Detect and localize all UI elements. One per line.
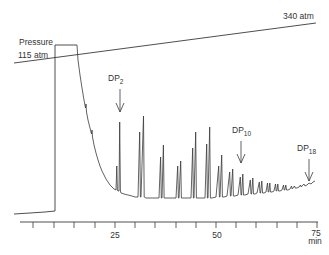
dp18-label: DP18	[297, 143, 316, 155]
x-axis: 25 50 75 min	[20, 222, 322, 246]
pressure-label: Pressure	[19, 37, 53, 47]
x-axis-ticks	[33, 222, 317, 228]
pressure-start-label: 115 atm	[18, 50, 48, 60]
pressure-end-label: 340 atm	[283, 11, 314, 21]
dp2-annotation: DP2	[108, 73, 124, 112]
dp2-label: DP2	[108, 73, 124, 85]
chromatogram-chart: Pressure 115 atm 340 atm DP2 DP10 DP18	[0, 0, 329, 255]
x-axis-unit-label: min	[308, 236, 322, 246]
chromatogram-baseline-start	[14, 211, 55, 214]
pressure-ramp-line	[14, 23, 316, 63]
x-tick-label-50: 50	[212, 230, 222, 240]
chromatogram-trace	[77, 45, 315, 198]
dp10-annotation: DP10	[232, 125, 251, 163]
x-tick-label-25: 25	[110, 230, 120, 240]
solvent-peak	[55, 45, 77, 211]
dp10-label: DP10	[232, 125, 251, 137]
dp18-annotation: DP18	[297, 143, 316, 181]
